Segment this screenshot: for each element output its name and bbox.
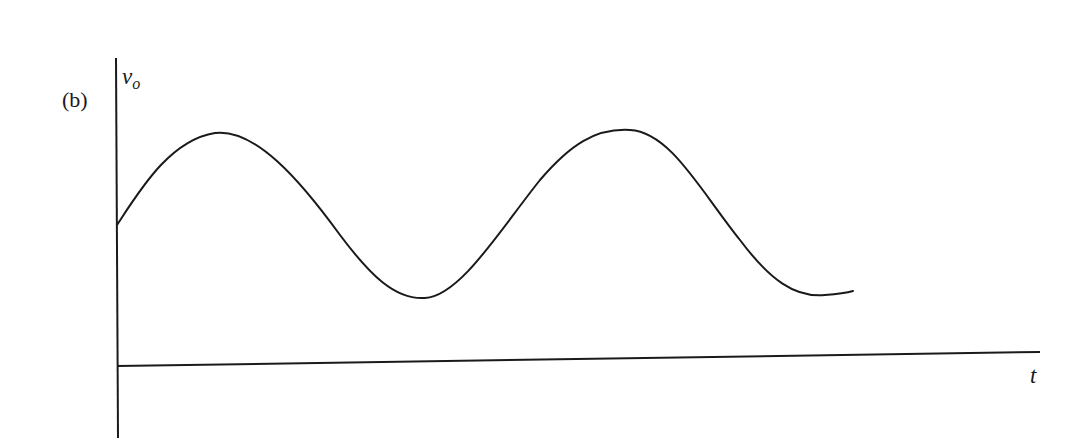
- y-axis-line: [116, 58, 118, 438]
- output-voltage-curve: [117, 130, 853, 298]
- x-axis-line: [117, 352, 1040, 366]
- y-axis-label: vo: [122, 64, 140, 92]
- waveform-diagram: (b) vo t: [0, 0, 1076, 445]
- x-axis-label: t: [1030, 363, 1037, 388]
- panel-label: (b): [62, 87, 88, 112]
